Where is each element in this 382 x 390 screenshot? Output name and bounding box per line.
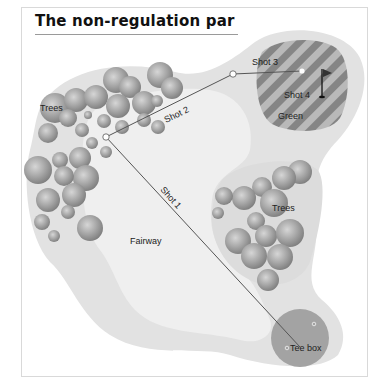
ball-position-icon [299,68,304,73]
shot-4-label: Shot 4 [284,90,310,100]
tee-box-label: Tee box [290,343,322,353]
ball-position-icon [230,71,236,77]
green-label: Green [278,111,303,121]
trees-right-label: Trees [272,203,295,213]
golf-hole-diagram: Trees Trees Fairway Green Tee box Shot 3… [0,0,382,390]
ball-position-icon [103,134,109,140]
fairway-label: Fairway [130,236,162,246]
shot-3-label: Shot 3 [252,57,278,67]
tee-box [271,309,329,367]
trees-left-label: Trees [40,103,63,113]
